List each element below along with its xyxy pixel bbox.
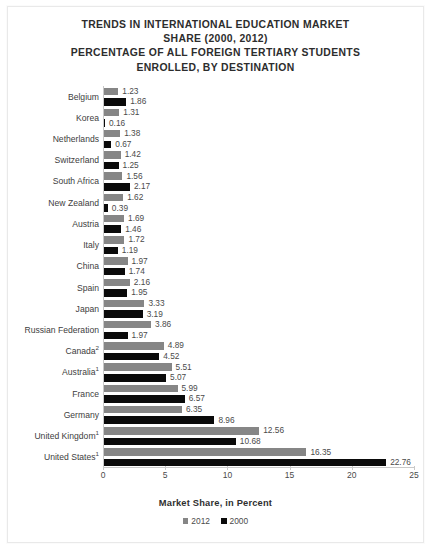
- bar-2012[interactable]: [103, 342, 164, 350]
- bar-2000[interactable]: [103, 119, 105, 127]
- category-footnote-marker: 1: [96, 429, 99, 436]
- bar-2012[interactable]: [103, 427, 259, 435]
- chart-row: Netherlands1.380.67: [0, 128, 431, 149]
- category-label: Italy: [0, 240, 99, 250]
- category-label: South Africa: [0, 176, 99, 186]
- bar-2000[interactable]: [103, 141, 111, 149]
- bar-line-2000: 22.76: [103, 457, 431, 468]
- category-label: Austria: [0, 219, 99, 229]
- bar-group: 1.380.67: [103, 128, 431, 149]
- bar-line-2012: 1.56: [103, 171, 431, 182]
- bar-2012[interactable]: [103, 88, 118, 96]
- bar-line-2000: 2.17: [103, 181, 431, 192]
- bar-group: 12.5610.68: [103, 426, 431, 447]
- category-label: Switzerland: [0, 155, 99, 165]
- chart-row: Germany6.358.96: [0, 404, 431, 425]
- bar-2012[interactable]: [103, 385, 178, 393]
- bar-2012[interactable]: [103, 236, 124, 244]
- bar-line-2000: 1.25: [103, 160, 431, 171]
- bar-line-2012: 1.23: [103, 86, 431, 97]
- bar-value-label: 6.57: [189, 394, 205, 403]
- bar-2012[interactable]: [103, 151, 121, 159]
- legend-item-2000[interactable]: 2000: [221, 516, 248, 526]
- bar-line-2000: 6.57: [103, 394, 431, 405]
- legend-item-2012[interactable]: 2012: [183, 516, 210, 526]
- bar-line-2012: 2.16: [103, 277, 431, 288]
- bar-value-label: 0.16: [109, 119, 125, 128]
- bar-group: 1.721.19: [103, 235, 431, 256]
- bar-2000[interactable]: [103, 310, 143, 318]
- bar-2000[interactable]: [103, 247, 118, 255]
- bar-2012[interactable]: [103, 130, 120, 138]
- bar-line-2012: 1.38: [103, 128, 431, 139]
- bar-value-label: 1.56: [126, 172, 142, 181]
- bar-2000[interactable]: [103, 98, 126, 106]
- x-tick-mark: [352, 466, 353, 470]
- legend-label-2000: 2000: [230, 516, 249, 526]
- bar-value-label: 1.95: [131, 288, 147, 297]
- bar-2012[interactable]: [103, 300, 144, 308]
- bar-value-label: 1.74: [129, 267, 145, 276]
- bar-value-label: 1.72: [128, 235, 144, 244]
- chart-row: New Zealand1.620.39: [0, 192, 431, 213]
- bar-2000[interactable]: [103, 289, 127, 297]
- bar-2000[interactable]: [103, 438, 236, 446]
- chart-row: Switzerland1.421.25: [0, 150, 431, 171]
- bar-group: 1.310.16: [103, 107, 431, 128]
- bar-group: 2.161.95: [103, 277, 431, 298]
- bar-group: 1.971.74: [103, 256, 431, 277]
- x-tick-label: 10: [223, 470, 232, 480]
- bar-line-2000: 4.52: [103, 351, 431, 362]
- bar-2000[interactable]: [103, 204, 108, 212]
- bar-value-label: 0.67: [115, 140, 131, 149]
- category-label: Russian Federation: [0, 325, 99, 335]
- bar-group: 1.620.39: [103, 192, 431, 213]
- bar-2000[interactable]: [103, 374, 166, 382]
- bar-group: 5.996.57: [103, 383, 431, 404]
- bar-2000[interactable]: [103, 162, 119, 170]
- chart-row: China1.971.74: [0, 256, 431, 277]
- bar-2000[interactable]: [103, 416, 214, 424]
- bar-2012[interactable]: [103, 321, 151, 329]
- bar-group: 1.691.46: [103, 213, 431, 234]
- bar-2012[interactable]: [103, 109, 119, 117]
- bar-2000[interactable]: [103, 353, 159, 361]
- category-label: Korea: [0, 113, 99, 123]
- bar-value-label: 6.35: [186, 405, 202, 414]
- bar-value-label: 3.19: [147, 310, 163, 319]
- bar-2000[interactable]: [103, 395, 185, 403]
- bar-2000[interactable]: [103, 459, 386, 467]
- category-footnote-marker: 1: [96, 366, 99, 373]
- bar-line-2000: 3.19: [103, 309, 431, 320]
- bar-2000[interactable]: [103, 332, 128, 340]
- chart-row: Russian Federation3.861.97: [0, 319, 431, 340]
- bar-2012[interactable]: [103, 172, 122, 180]
- bar-value-label: 1.23: [122, 87, 138, 96]
- bar-2000[interactable]: [103, 268, 125, 276]
- bar-line-2012: 3.86: [103, 319, 431, 330]
- chart-row: Japan3.333.19: [0, 298, 431, 319]
- bar-group: 3.861.97: [103, 319, 431, 340]
- chart-row: Belgium1.231.86: [0, 86, 431, 107]
- bar-line-2000: 1.19: [103, 245, 431, 256]
- bar-2012[interactable]: [103, 363, 172, 371]
- bar-value-label: 1.42: [125, 150, 141, 159]
- bar-2012[interactable]: [103, 257, 128, 265]
- plot-area: Belgium1.231.86Korea1.310.16Netherlands1…: [0, 86, 431, 468]
- bar-line-2000: 8.96: [103, 415, 431, 426]
- bar-2012[interactable]: [103, 406, 182, 414]
- chart-row: United Kingdom112.5610.68: [0, 426, 431, 447]
- bar-value-label: 3.86: [155, 320, 171, 329]
- bar-2012[interactable]: [103, 194, 123, 202]
- bar-2012[interactable]: [103, 279, 130, 287]
- chart-title-line-1: TRENDS IN INTERNATIONAL EDUCATION MARKET: [16, 18, 415, 32]
- bar-value-label: 22.76: [390, 458, 411, 467]
- bar-2012[interactable]: [103, 448, 306, 456]
- bar-group: 1.231.86: [103, 86, 431, 107]
- bar-2012[interactable]: [103, 215, 124, 223]
- bar-2000[interactable]: [103, 183, 130, 191]
- chart-row: Spain2.161.95: [0, 277, 431, 298]
- bar-group: 1.421.25: [103, 150, 431, 171]
- bar-value-label: 2.16: [134, 278, 150, 287]
- bar-2000[interactable]: [103, 225, 121, 233]
